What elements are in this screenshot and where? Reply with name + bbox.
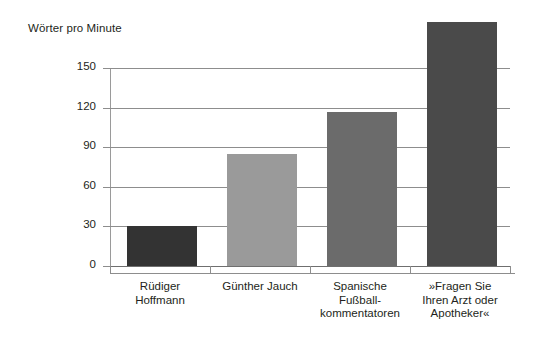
x-tick-4 <box>510 266 511 274</box>
category-label: RüdigerHoffmann <box>103 280 217 307</box>
category-label-line: »Fragen Sie <box>403 280 517 294</box>
bar-chart: Wörter pro Minute 0306090120150 RüdigerH… <box>0 0 541 341</box>
bar <box>227 154 297 266</box>
category-label-line: kommentatoren <box>303 307 417 321</box>
y-axis-label-0: 0 <box>36 258 96 270</box>
bar <box>327 112 397 266</box>
x-tick-1 <box>210 266 211 274</box>
category-label-line: Spanische <box>303 280 417 294</box>
x-axis-line <box>110 273 515 274</box>
category-label-line: Apotheker« <box>403 307 517 321</box>
category-label-line: Fußball- <box>303 294 417 308</box>
x-tick-3 <box>410 266 411 274</box>
bar <box>427 22 497 266</box>
category-label-line: Hoffmann <box>103 294 217 308</box>
x-tick-0 <box>110 266 111 274</box>
category-label-line: Ihren Arzt oder <box>403 294 517 308</box>
x-tick-2 <box>310 266 311 274</box>
y-axis-label-90: 90 <box>36 139 96 151</box>
category-label: SpanischeFußball-kommentatoren <box>303 280 417 321</box>
bar <box>127 226 197 266</box>
y-axis-label-150: 150 <box>36 60 96 72</box>
chart-axis-title: Wörter pro Minute <box>28 22 122 34</box>
category-label: Günther Jauch <box>203 280 317 294</box>
y-axis-label-60: 60 <box>36 179 96 191</box>
y-axis-label-120: 120 <box>36 100 96 112</box>
category-label-line: Günther Jauch <box>203 280 317 294</box>
category-label-line: Rüdiger <box>103 280 217 294</box>
y-axis-label-30: 30 <box>36 218 96 230</box>
plot-area <box>110 68 510 266</box>
category-label: »Fragen SieIhren Arzt oderApotheker« <box>403 280 517 321</box>
